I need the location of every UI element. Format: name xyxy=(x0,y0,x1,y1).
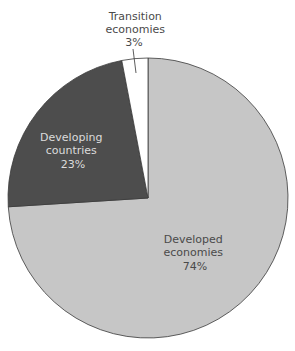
label-developing-value: 23% xyxy=(61,158,85,171)
label-developing-line2: countries xyxy=(46,144,97,157)
label-developed-line2: economies xyxy=(163,246,223,259)
label-developed-line1: Developed xyxy=(164,233,223,246)
label-transition-value: 3% xyxy=(125,36,142,49)
label-developing-line1: Developing xyxy=(40,131,102,144)
label-transition-line2: economies xyxy=(105,23,165,36)
pie-chart: Transition economies 3% Developing count… xyxy=(0,0,295,351)
label-transition: Transition economies 3% xyxy=(105,10,168,49)
label-transition-line1: Transition xyxy=(108,10,162,23)
label-developed-value: 74% xyxy=(183,260,207,273)
pie-slices xyxy=(8,58,288,338)
